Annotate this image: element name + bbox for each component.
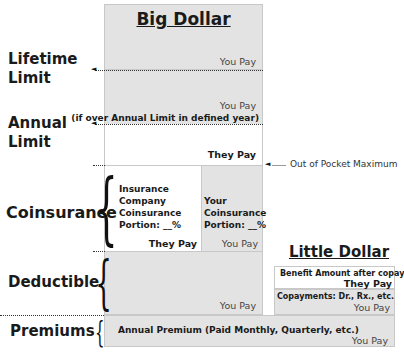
annual-limit-line	[95, 124, 263, 125]
oop-they-pay: They Pay	[208, 149, 256, 160]
premiums-label: Premiums	[10, 322, 95, 341]
lifetime-section: Big Dollar You Pay	[104, 4, 263, 70]
out-of-pocket-label: Out of Pocket Maximum	[290, 159, 397, 169]
lifetime-limit-line	[95, 70, 263, 71]
copay-you-pay: You Pay	[354, 302, 390, 313]
lifetime-arrow-icon: ◄	[91, 66, 96, 73]
deductible-label: Deductible	[8, 273, 99, 292]
insurer-portion-text: Insurance Company Coinsurance Portion: _…	[119, 183, 181, 231]
benefit-they-pay: They Pay	[344, 278, 392, 289]
coinsurance-insurer-portion: Insurance Company Coinsurance Portion: _…	[104, 165, 201, 251]
coinsurance-they-pay: They Pay	[149, 238, 197, 249]
coinsurance-you-pay: You Pay	[222, 238, 258, 249]
premium-you-pay: You Pay	[352, 335, 388, 346]
deductible-brace-icon: {	[95, 252, 100, 314]
coinsurance-brace-icon: {	[95, 166, 100, 250]
deductible-bottom-line	[0, 315, 104, 316]
annual-limit-label: Annual Limit	[8, 114, 67, 152]
premiums-section: Annual Premium (Paid Monthly, Quarterly,…	[104, 315, 395, 347]
annual-you-pay: You Pay	[220, 100, 256, 111]
oop-arrow-icon: ◄	[265, 161, 270, 168]
annual-section: You Pay (if over Annual Limit in defined…	[104, 70, 263, 124]
deductible-section: You Pay	[104, 251, 263, 315]
premium-label: Annual Premium (Paid Monthly, Quarterly,…	[118, 324, 359, 336]
lifetime-you-pay: You Pay	[220, 56, 256, 67]
deductible-you-pay: You Pay	[220, 300, 256, 311]
oop-section: They Pay	[104, 124, 263, 165]
annual-arrow-icon: ◄	[91, 120, 96, 127]
coinsurance-your-portion: Your Coinsurance Portion: __% You Pay	[201, 165, 263, 251]
lifetime-limit-label: Lifetime Limit	[8, 50, 78, 88]
oop-pointer-line	[272, 165, 286, 166]
benefit-box: Benefit Amount after copay They Pay	[274, 266, 395, 289]
copay-box: Copayments: Dr., Rx., etc. You Pay	[274, 289, 395, 315]
premiums-brace-icon: {	[95, 316, 101, 348]
your-portion-text: Your Coinsurance Portion: __%	[204, 195, 266, 231]
little-dollar-title: Little Dollar	[283, 243, 395, 261]
big-dollar-title: Big Dollar	[105, 9, 262, 29]
annual-limit-note: (if over Annual Limit in defined year)	[71, 112, 259, 124]
